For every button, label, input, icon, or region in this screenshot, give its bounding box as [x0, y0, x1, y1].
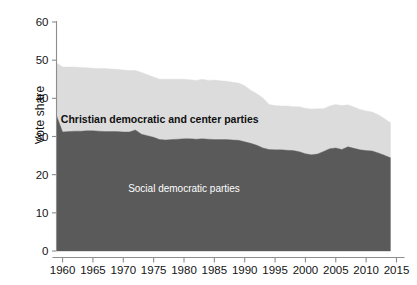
- y-tick-label-60: 60: [36, 16, 49, 28]
- area-bands: [57, 63, 391, 251]
- y-tick-label-20: 20: [36, 169, 49, 181]
- x-tick-label-1980: 1980: [171, 264, 197, 276]
- y-tick-label-50: 50: [36, 54, 49, 66]
- y-tick-label-30: 30: [36, 131, 49, 143]
- x-tick-label-1970: 1970: [110, 264, 136, 276]
- x-tick-label-1995: 1995: [262, 264, 288, 276]
- lower-band-label: Social democratic parties: [128, 183, 240, 194]
- x-tick-label-1960: 1960: [50, 264, 76, 276]
- x-tick-label-2010: 2010: [353, 264, 379, 276]
- upper-band-label: Christian democratic and center parties: [61, 113, 259, 125]
- x-tick-label-2015: 2015: [384, 264, 410, 276]
- y-tick-label-10: 10: [36, 207, 49, 219]
- x-tick-label-1985: 1985: [202, 264, 228, 276]
- x-tick-label-1965: 1965: [80, 264, 106, 276]
- x-tick-label-1975: 1975: [141, 264, 167, 276]
- chart-figure: Vote share 01020304050601960196519701975…: [0, 0, 417, 285]
- y-tick-label-40: 40: [36, 92, 49, 104]
- stacked-area-chart: 0102030405060196019651970197519801985199…: [0, 0, 417, 285]
- y-tick-label-0: 0: [42, 245, 48, 257]
- x-tick-label-2000: 2000: [293, 264, 319, 276]
- x-tick-label-2005: 2005: [323, 264, 349, 276]
- x-tick-label-1990: 1990: [232, 264, 258, 276]
